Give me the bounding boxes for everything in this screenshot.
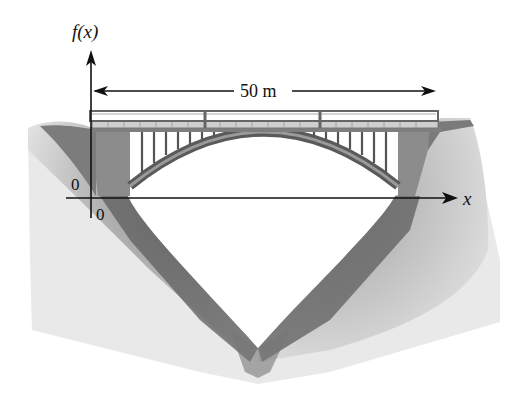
x-axis-label: x [462,188,472,209]
origin-y-label: 0 [71,175,80,194]
bridge-deck [90,111,442,132]
span-label: 50 m [240,81,277,101]
bridge-parabola-figure: f(x) x 0 0 50 m [0,0,528,394]
y-axis-label: f(x) [72,21,98,43]
figure-svg: f(x) x 0 0 50 m [0,0,528,394]
origin-x-label: 0 [96,205,105,224]
bridge-arch [130,132,398,186]
